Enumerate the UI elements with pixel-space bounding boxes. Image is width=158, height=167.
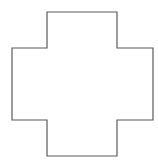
cross-shape [12,12,153,156]
cross-diagram [0,0,158,167]
diagram-canvas [0,0,158,167]
